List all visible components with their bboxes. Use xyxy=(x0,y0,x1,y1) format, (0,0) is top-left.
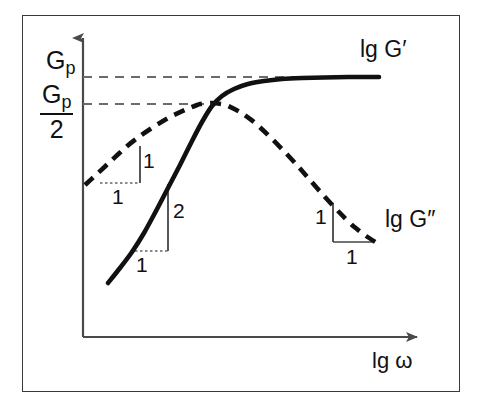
slope-label-dashed-rise-vertical: 1 xyxy=(143,150,155,171)
slope-label-solid-rise-vertical: 2 xyxy=(173,200,185,221)
y-axis-label-gp: Gp xyxy=(46,48,75,77)
curve-label-lg-g-double-prime: lg G″ xyxy=(385,208,435,231)
figure-border xyxy=(22,15,460,392)
slope-label-solid-rise-horizontal: 1 xyxy=(136,254,148,275)
curve-label-lg-g-prime: lg G′ xyxy=(360,38,407,61)
fraction-denominator: 2 xyxy=(40,116,73,142)
slope-label-dashed-fall-vertical: 1 xyxy=(315,206,327,227)
y-axis-label-gp-half: Gp 2 xyxy=(40,82,73,142)
fraction-numerator-base: G xyxy=(42,80,61,108)
slope-label-dashed-rise-horizontal: 1 xyxy=(112,186,124,207)
fraction-numerator: Gp xyxy=(40,82,73,112)
slope-label-dashed-fall-horizontal: 1 xyxy=(346,246,358,267)
fraction-gp-over-2: Gp 2 xyxy=(40,82,73,142)
y-axis-label-gp-subscript: p xyxy=(65,58,75,78)
y-axis-label-gp-base: G xyxy=(46,46,65,74)
fraction-numerator-subscript: p xyxy=(61,92,71,112)
x-axis-label: lg ω xyxy=(372,350,412,372)
figure-root: Gp Gp 2 lg G′ lg G″ lg ω 1 1 2 1 1 1 xyxy=(0,0,478,401)
